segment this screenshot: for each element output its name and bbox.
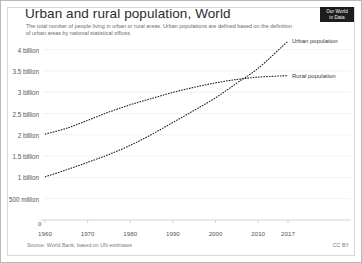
chart-card: Urban and rural population, World The to… xyxy=(0,0,362,263)
y-axis-tick-label: 3 billion xyxy=(1,89,39,96)
y-axis-zero-label: 0 xyxy=(38,220,41,227)
source-note: Source: World Bank, based on UN estimate… xyxy=(27,242,132,248)
x-axis-tick-label: 1960 xyxy=(38,230,52,237)
y-axis-tick-label: 1.5 billion xyxy=(1,153,39,160)
x-axis-tick-label: 1980 xyxy=(123,230,137,237)
y-axis-tick-label: 2.5 billion xyxy=(1,110,39,117)
y-axis-tick-label: 1 billion xyxy=(1,174,39,181)
series-label: Rural population xyxy=(292,73,336,79)
axis-line xyxy=(41,220,351,223)
y-axis-tick-label: 4 billion xyxy=(1,46,39,53)
license-note: CC BY xyxy=(333,242,349,248)
y-axis-tick-label: 500 million xyxy=(1,195,39,202)
x-axis-tick-label: 2017 xyxy=(281,230,295,237)
x-axis-tick-label: 1990 xyxy=(166,230,180,237)
x-axis-tick-label: 2010 xyxy=(251,230,265,237)
y-axis-tick-label: 2 billion xyxy=(1,131,39,138)
x-axis-tick-label: 2000 xyxy=(209,230,223,237)
x-axis-tick-label: 1970 xyxy=(81,230,95,237)
series-lines xyxy=(45,41,288,177)
y-axis-tick-label: 3.5 billion xyxy=(1,67,39,74)
series-label: Urban population xyxy=(292,38,338,44)
